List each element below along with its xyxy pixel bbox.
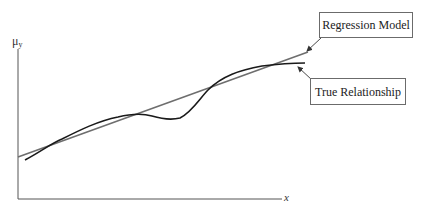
regression-model-label: Regression Model bbox=[322, 19, 410, 31]
regression-callout-arrow bbox=[307, 38, 321, 51]
y-axis-label: μy bbox=[12, 35, 22, 49]
true-relationship-curve bbox=[25, 63, 305, 160]
true-relationship-label: True Relationship bbox=[315, 86, 401, 98]
true-relationship-callout: True Relationship bbox=[310, 78, 406, 105]
regression-model-callout: Regression Model bbox=[319, 12, 413, 38]
regression-line bbox=[18, 52, 308, 157]
y-axis-label-subscript: y bbox=[18, 40, 22, 49]
x-axis-label: x bbox=[284, 192, 289, 203]
